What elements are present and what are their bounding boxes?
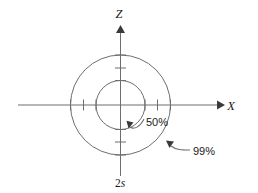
outer-leader-curve [171, 146, 190, 150]
diagram-canvas: X Z 50% 99% 2s [0, 0, 258, 193]
x-axis-label: X [226, 99, 236, 113]
z-axis-arrowhead [116, 25, 125, 33]
x-axis-arrowhead [217, 101, 225, 110]
x-axis-group [18, 101, 225, 110]
outer-contour-label: 99% [193, 145, 215, 157]
orbital-diagram: X Z 50% 99% 2s [0, 0, 258, 193]
orbital-subshell-letter: s [121, 177, 126, 189]
inner-contour-label: 50% [146, 116, 168, 128]
inner-contour-leader [127, 119, 145, 129]
orbital-designation-label: 2s [115, 177, 126, 189]
z-axis-group [116, 25, 125, 176]
z-axis-label: Z [116, 7, 124, 21]
outer-contour-leader [166, 141, 190, 151]
